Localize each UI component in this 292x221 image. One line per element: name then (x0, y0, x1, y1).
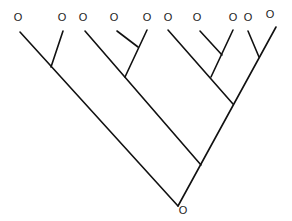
edge-leaf2-to-a (51, 31, 63, 67)
root-node: O (179, 204, 188, 216)
leaf-node-10: O (266, 8, 275, 20)
leaf-node-5: O (143, 11, 152, 23)
edge-leaf6-to-g (168, 30, 233, 104)
leaf-node-3: O (79, 11, 88, 23)
edge-leaf10-to-h (178, 27, 276, 206)
edge-leaf9-to-f (248, 31, 259, 57)
leaf-node-7: O (193, 11, 202, 23)
edge-leaf1-to-root (20, 32, 178, 206)
edge-leaf4-to-b (117, 31, 138, 47)
edge-leaf7-to-d (200, 31, 222, 55)
leaf-node-2: O (58, 11, 67, 23)
leaf-node-6: O (164, 11, 173, 23)
leaf-node-1: O (14, 11, 23, 23)
tree-diagram: O O O O O O O O O O O (0, 0, 292, 221)
edge-leaf8-to-e (211, 30, 233, 77)
edge-leaf3-to-h (85, 31, 201, 165)
leaf-node-9: O (244, 11, 253, 23)
leaf-node-4: O (110, 11, 119, 23)
edge-leaf5-to-c (125, 30, 147, 77)
leaf-node-8: O (229, 11, 238, 23)
